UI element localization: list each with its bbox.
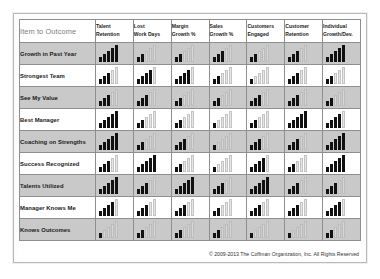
bar-group [96, 109, 133, 130]
bar-filled [111, 180, 114, 194]
bar-filled [330, 142, 333, 150]
bar-empty [187, 48, 190, 62]
bar-filled [326, 57, 329, 62]
bar-filled [103, 98, 106, 106]
bar-group [134, 109, 171, 130]
bar-empty [115, 89, 118, 106]
bar-filled [342, 133, 345, 150]
bar-group [210, 175, 247, 196]
bar-group [134, 65, 171, 86]
bar-filled [266, 177, 269, 194]
bar-group [323, 153, 360, 174]
bar-filled [292, 120, 295, 128]
bar-group [323, 43, 360, 64]
matrix-cell [171, 197, 209, 219]
bar-empty [111, 224, 114, 238]
matrix-cell [209, 109, 247, 131]
bar-filled [217, 208, 220, 216]
bar-filled [137, 101, 140, 106]
bar-filled [334, 205, 337, 216]
bar-empty [258, 227, 261, 238]
bar-empty [342, 67, 345, 84]
bar-filled [334, 51, 337, 62]
bar-empty [266, 89, 269, 106]
bar-filled [99, 211, 102, 216]
bar-empty [300, 48, 303, 62]
matrix-cell [171, 87, 209, 109]
matrix-cell [247, 65, 285, 87]
bar-filled [99, 233, 102, 238]
bar-empty [153, 177, 156, 194]
matrix-cell [247, 43, 285, 65]
bar-empty [304, 177, 307, 194]
bar-filled [175, 211, 178, 216]
bar-group [323, 109, 360, 130]
bar-filled [326, 189, 329, 194]
bar-group [247, 175, 284, 196]
matrix-cell [285, 109, 323, 131]
bar-filled [217, 76, 220, 84]
bar-empty [149, 92, 152, 106]
bar-empty [258, 73, 261, 84]
row-label-success-recognized: Success Recognized [20, 153, 96, 175]
bar-filled [288, 79, 291, 84]
bar-group [96, 197, 133, 218]
matrix-body: Growth in Past YearStrongest TeamSee My … [20, 43, 361, 241]
bar-group [96, 153, 133, 174]
bar-filled [137, 123, 140, 128]
bar-group [134, 87, 171, 108]
bar-empty [229, 45, 232, 62]
bar-filled [288, 57, 291, 62]
bar-empty [266, 45, 269, 62]
bar-filled [330, 76, 333, 84]
matrix-cell [209, 197, 247, 219]
column-header-talent-retention: Talent Retention [96, 20, 134, 43]
matrix-cell [171, 219, 209, 241]
bar-empty [221, 205, 224, 216]
bar-filled [330, 120, 333, 128]
bar-filled [296, 183, 299, 194]
bar-filled [258, 205, 261, 216]
bar-filled [99, 145, 102, 150]
bar-empty [342, 89, 345, 106]
bar-group [96, 175, 133, 196]
column-header-customers-engaged: Customers Engaged [247, 20, 285, 43]
matrix-cell [209, 219, 247, 241]
bar-filled [99, 167, 102, 172]
bar-filled [99, 79, 102, 84]
bar-filled [221, 51, 224, 62]
matrix-cell [247, 131, 285, 153]
bar-empty [183, 227, 186, 238]
bar-filled [338, 136, 341, 150]
bar-filled [175, 123, 178, 128]
bar-filled [107, 117, 110, 128]
bar-filled [292, 76, 295, 84]
matrix-cell [171, 109, 209, 131]
matrix-cell [285, 175, 323, 197]
bar-filled [326, 79, 329, 84]
bar-empty [225, 114, 228, 128]
bar-empty [304, 133, 307, 150]
bar-group [134, 131, 171, 152]
bar-empty [254, 230, 257, 238]
bar-filled [250, 189, 253, 194]
bar-empty [149, 224, 152, 238]
matrix-cell [133, 197, 171, 219]
matrix-cell [285, 87, 323, 109]
bar-filled [262, 158, 265, 172]
bar-empty [262, 70, 265, 84]
bar-group [172, 87, 209, 108]
bar-empty [229, 177, 232, 194]
bar-empty [153, 221, 156, 238]
bar-empty [304, 89, 307, 106]
bar-filled [262, 180, 265, 194]
bar-filled [107, 205, 110, 216]
bar-filled [213, 189, 216, 194]
bar-group [134, 197, 171, 218]
bar-empty [338, 92, 341, 106]
bar-empty [300, 224, 303, 238]
bar-empty [145, 227, 148, 238]
matrix-row: See My Value [20, 87, 361, 109]
bar-filled [334, 161, 337, 172]
bar-group [285, 109, 322, 130]
